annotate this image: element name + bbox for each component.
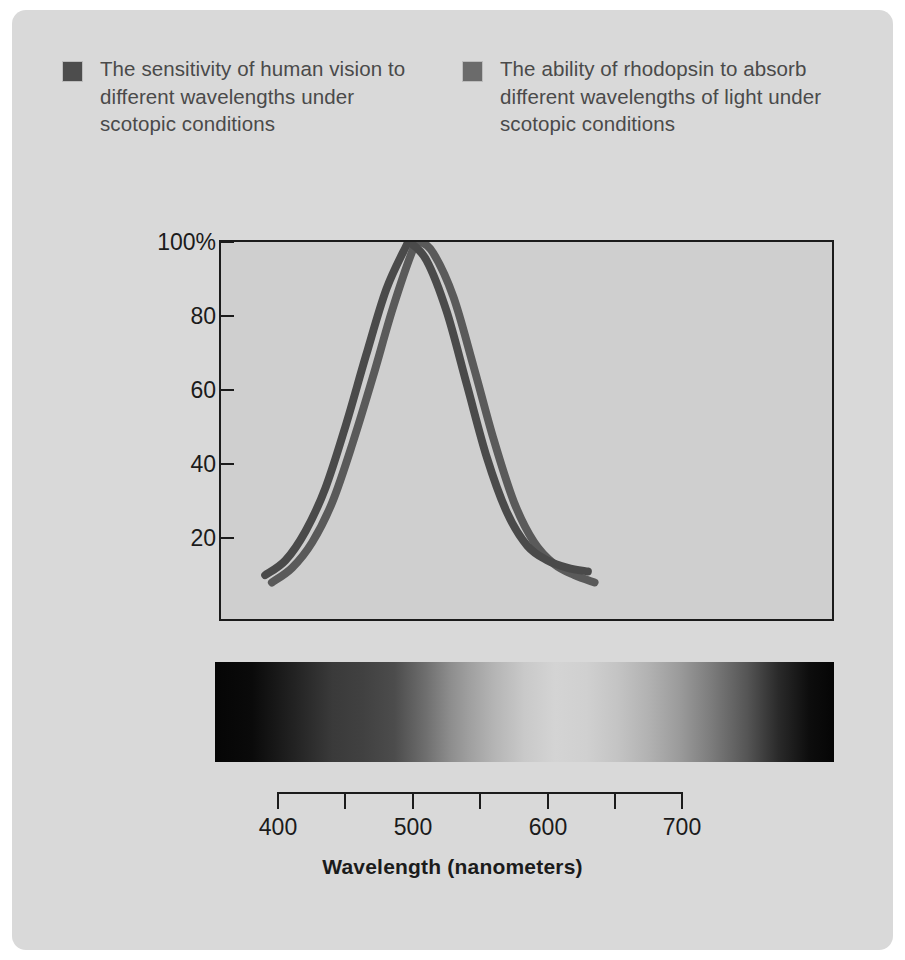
visible-light-spectrum-strip (215, 662, 834, 762)
legend-item-scotopic-sensitivity: The sensitivity of human vision to diffe… (62, 55, 412, 138)
y-tick-label: 80 (190, 303, 216, 330)
y-tick-label: 20 (190, 525, 216, 552)
x-tick-label-600: 600 (529, 814, 567, 841)
series-rhodopsin-absorption-curve (265, 242, 588, 575)
plot-area: Scotopic Spectral Sensitivity Absorption… (219, 240, 834, 621)
x-tick-label-700: 700 (663, 814, 701, 841)
series-scotopic-sensitivity-curve (272, 242, 595, 582)
x-tick-mark-650 (614, 792, 616, 809)
y-tick-label: 60 (190, 377, 216, 404)
x-tick-mark-600 (547, 792, 549, 809)
x-tick-mark-450 (344, 792, 346, 809)
x-tick-mark-500 (412, 792, 414, 809)
legend-item-label: The sensitivity of human vision to diffe… (100, 55, 412, 138)
figure-card: The sensitivity of human vision to diffe… (12, 10, 893, 950)
x-tick-label-400: 400 (259, 814, 297, 841)
legend-item-rhodopsin-absorption: The ability of rhodopsin to absorb diffe… (462, 55, 842, 138)
y-tick-label: 40 (190, 451, 216, 478)
x-tick-mark-700 (681, 792, 683, 809)
x-tick-label-500: 500 (394, 814, 432, 841)
x-axis-title: Wavelength (nanometers) (12, 855, 893, 879)
y-tick-label: 100% (157, 229, 216, 256)
chart-curves (221, 242, 832, 619)
x-tick-mark-400 (277, 792, 279, 809)
legend-item-label: The ability of rhodopsin to absorb diffe… (500, 55, 842, 138)
square-swatch-icon (462, 61, 483, 82)
x-tick-mark-550 (479, 792, 481, 809)
square-swatch-icon (62, 61, 83, 82)
x-axis: 400 500 600 700 (277, 792, 683, 793)
